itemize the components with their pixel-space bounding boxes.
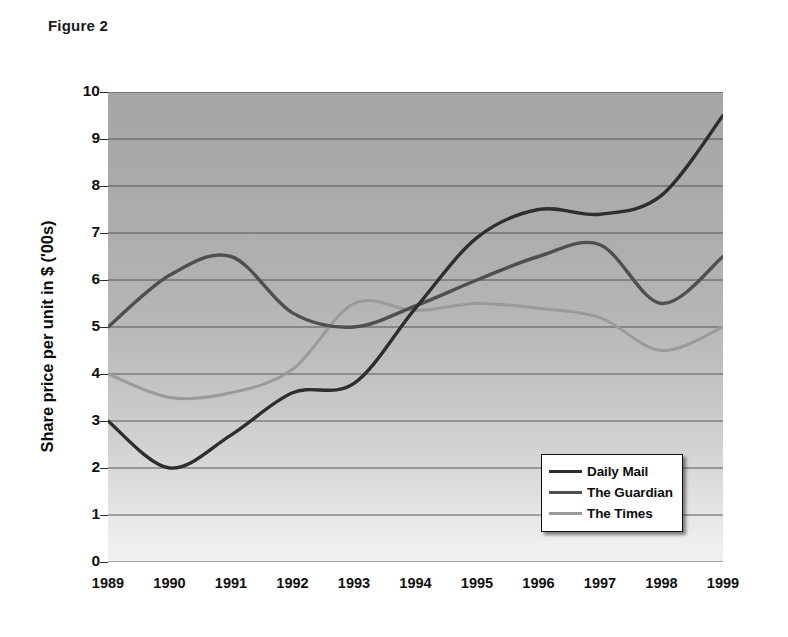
y-tick-label: 6: [70, 270, 100, 288]
y-tick-label: 5: [70, 317, 100, 335]
y-axis-title: Share price per unit in $ ('00s): [38, 127, 57, 547]
legend-label: The Times: [587, 506, 653, 521]
legend-item[interactable]: The Times: [549, 503, 673, 524]
y-axis-tick-labels: 012345678910: [62, 92, 100, 562]
y-tick-mark: [100, 280, 108, 281]
x-tick-label: 1993: [324, 575, 384, 591]
y-tick-mark: [100, 327, 108, 328]
x-tick-label: 1995: [447, 575, 507, 591]
x-tick-label: 1992: [263, 575, 323, 591]
x-tick-label: 1990: [140, 575, 200, 591]
y-tick-label: 2: [70, 458, 100, 476]
legend-item[interactable]: The Guardian: [549, 482, 673, 503]
y-tick-mark: [100, 374, 108, 375]
series-line: [108, 116, 723, 469]
x-tick-label: 1994: [386, 575, 446, 591]
x-tick-label: 1999: [693, 575, 753, 591]
chart-legend: Daily MailThe GuardianThe Times: [541, 454, 683, 532]
legend-swatch-icon: [549, 491, 582, 494]
y-tick-label: 0: [70, 552, 100, 570]
y-tick-mark: [100, 233, 108, 234]
figure-caption: Figure 2: [48, 17, 108, 34]
legend-label: Daily Mail: [587, 464, 648, 479]
legend-item[interactable]: Daily Mail: [549, 461, 673, 482]
series-line: [108, 300, 723, 398]
x-tick-label: 1996: [509, 575, 569, 591]
y-tick-mark: [100, 139, 108, 140]
y-tick-mark: [100, 515, 108, 516]
y-tick-mark: [100, 562, 108, 563]
legend-swatch-icon: [549, 470, 582, 473]
y-tick-label: 3: [70, 411, 100, 429]
x-tick-label: 1998: [632, 575, 692, 591]
y-tick-label: 10: [70, 82, 100, 100]
x-tick-label: 1989: [78, 575, 138, 591]
y-tick-label: 7: [70, 223, 100, 241]
x-tick-label: 1997: [570, 575, 630, 591]
figure-container: Figure 2 Share price per unit in $ ('00s…: [0, 0, 788, 637]
y-tick-mark: [100, 186, 108, 187]
y-tick-label: 1: [70, 505, 100, 523]
y-tick-mark: [100, 468, 108, 469]
x-axis-tick-labels: 1989199019911992199319941995199619971998…: [108, 575, 723, 605]
legend-label: The Guardian: [587, 485, 673, 500]
legend-swatch-icon: [549, 512, 582, 515]
y-tick-label: 4: [70, 364, 100, 382]
y-tick-label: 9: [70, 129, 100, 147]
y-axis-tick-marks: [100, 92, 108, 562]
y-tick-mark: [100, 92, 108, 93]
y-tick-mark: [100, 421, 108, 422]
series-line: [108, 242, 723, 327]
y-tick-label: 8: [70, 176, 100, 194]
x-tick-label: 1991: [201, 575, 261, 591]
